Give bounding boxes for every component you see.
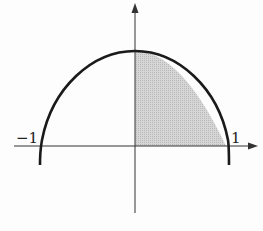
x-axis-arrow-icon [248,143,258,150]
y-axis-arrow-icon [132,3,139,13]
diagram-canvas: −1 1 [0,0,263,231]
label-right-intercept: 1 [231,129,241,147]
graph-svg: −1 1 [0,0,263,231]
label-left-intercept: −1 [16,129,38,147]
